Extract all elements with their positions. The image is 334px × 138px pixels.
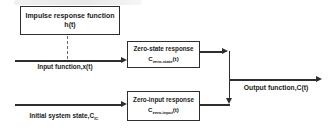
dashed-connector [67,36,68,59]
initial-state-label: Initial system state,CIC [16,112,112,121]
zero-input-symbol: Czero-input(t) [148,106,179,115]
initial-state-arrowhead-icon [121,101,127,107]
scan-artifact [14,0,142,5]
zero-input-response-box: Zero-input response Czero-input(t) [127,91,200,121]
zero-input-symbol-arg: (t) [173,106,179,113]
zero-state-output-arrowhead-icon [222,48,228,54]
zero-state-symbol-sub: zero-state [153,59,173,64]
zero-state-response-box: Zero-state response Czero-state(t) [127,41,200,68]
zero-state-box-title: Zero-state response [133,45,193,53]
initial-state-label-sub: IC [94,116,98,121]
block-diagram: Impulse response function h(t) Input fun… [0,0,334,138]
input-function-label: Input function,x(t) [24,63,106,70]
zero-state-symbol-arg: (t) [173,55,179,62]
impulse-response-box: Impulse response function h(t) [20,6,120,35]
zero-input-symbol-sub: zero-input [153,111,173,116]
zero-state-output-line [200,51,223,53]
input-arrow-line [15,60,121,62]
output-arrow-line [229,79,316,81]
zero-input-box-title: Zero-input response [133,96,194,104]
zero-input-output-line [200,104,230,106]
output-arrowhead-icon [316,76,322,82]
initial-state-label-base: Initial system state,C [29,112,94,119]
initial-state-arrow-line [15,104,121,106]
junction-vertical-line [229,51,231,98]
impulse-box-title: Impulse response function [25,12,114,21]
output-function-label: Output function,C(t) [238,84,314,91]
zero-state-symbol: Czero-state(t) [148,55,178,64]
impulse-box-symbol: h(t) [64,21,75,30]
